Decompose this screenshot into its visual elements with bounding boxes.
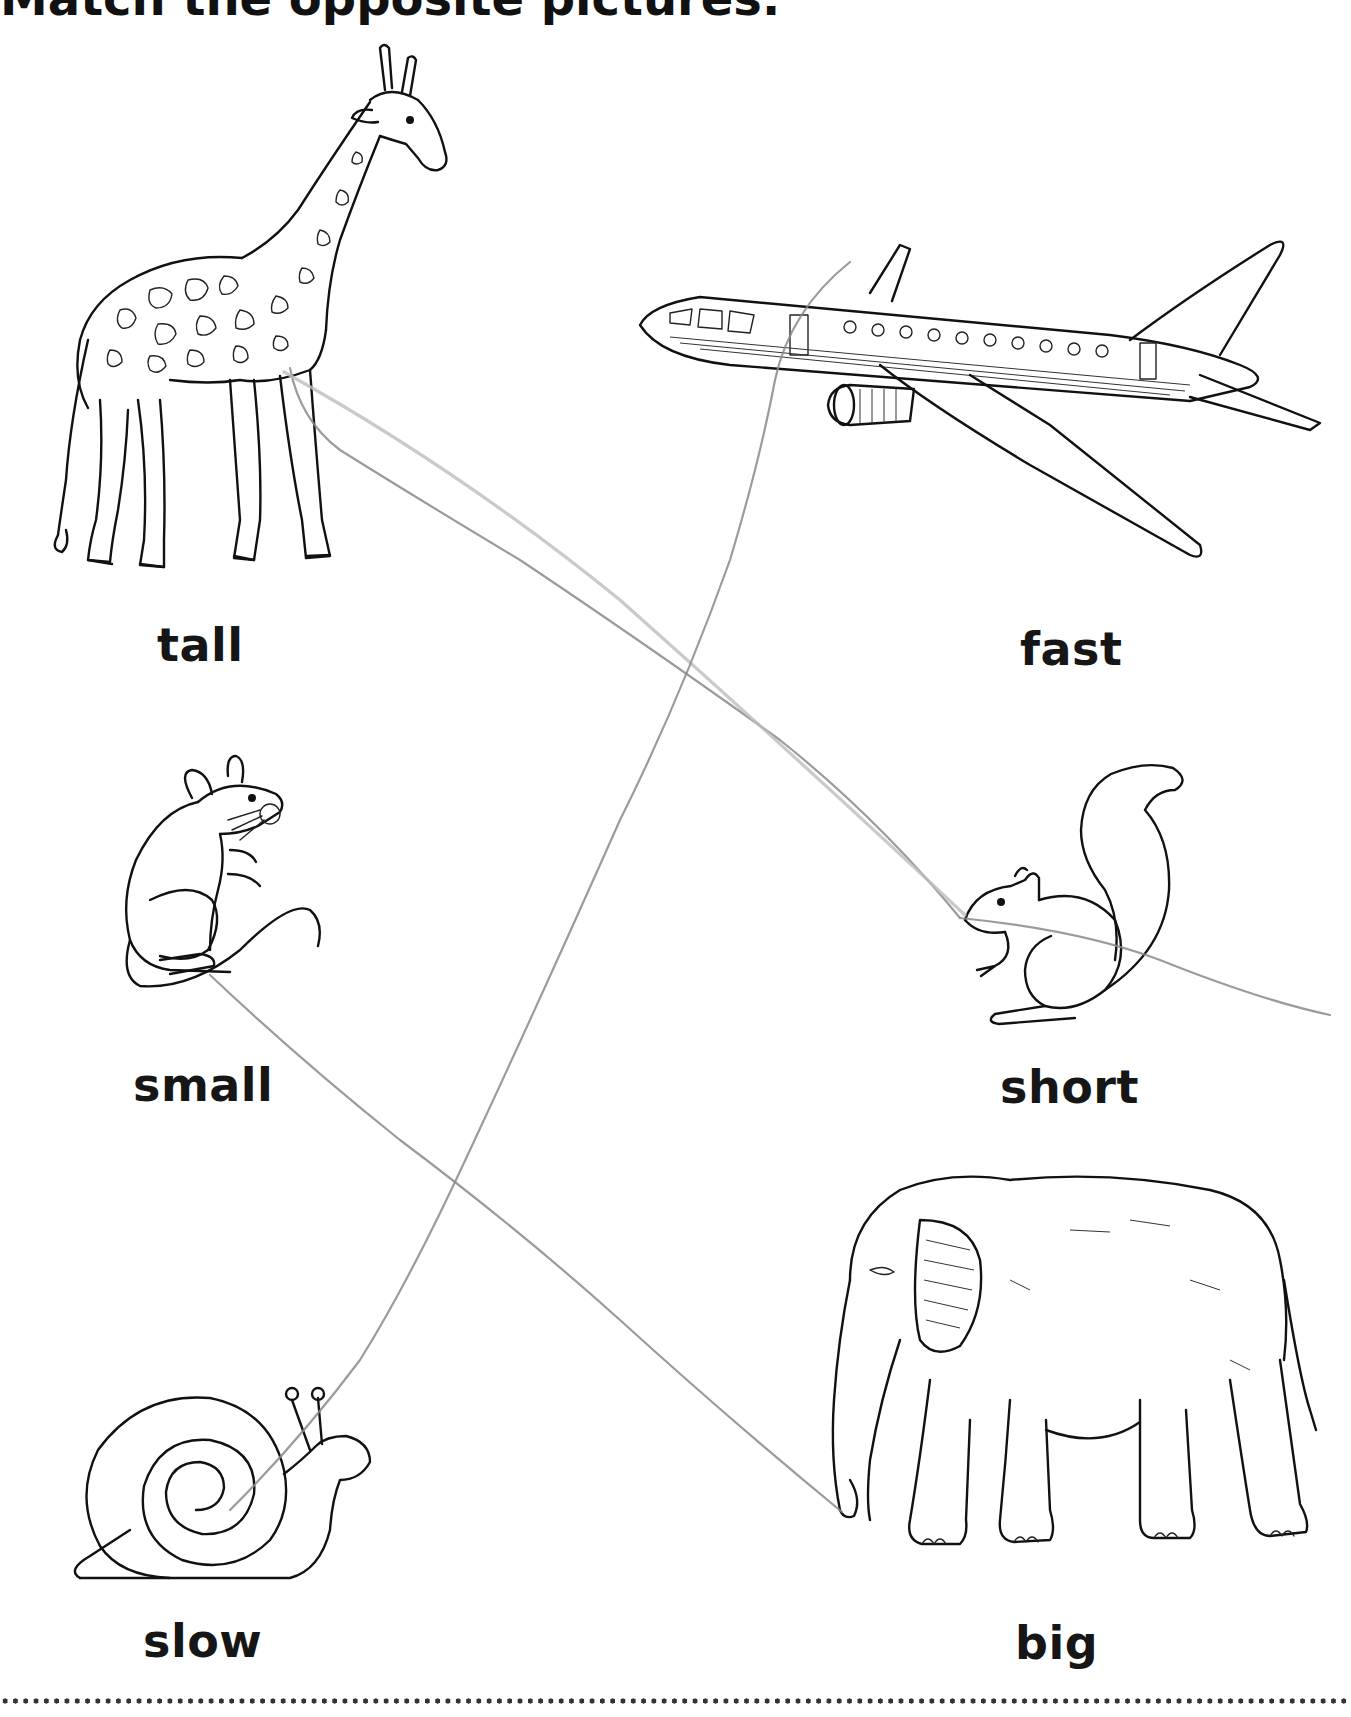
squirrel-drawing-icon[interactable] (955, 760, 1215, 1030)
worksheet-title: Match the opposite pictures. (0, 0, 900, 26)
mouse-drawing-icon[interactable] (100, 750, 340, 990)
word-big[interactable]: big (1015, 1620, 1098, 1666)
airplane-drawing-icon[interactable] (630, 225, 1330, 565)
word-slow[interactable]: slow (143, 1618, 262, 1664)
word-short[interactable]: short (1000, 1064, 1139, 1110)
word-small[interactable]: small (133, 1062, 273, 1108)
dotted-cut-line (0, 1697, 1351, 1705)
elephant-drawing-icon[interactable] (810, 1160, 1330, 1560)
giraffe-drawing-icon[interactable] (40, 40, 450, 600)
word-fast[interactable]: fast (1020, 626, 1122, 672)
word-tall[interactable]: tall (157, 622, 244, 668)
snail-drawing-icon[interactable] (70, 1370, 370, 1580)
